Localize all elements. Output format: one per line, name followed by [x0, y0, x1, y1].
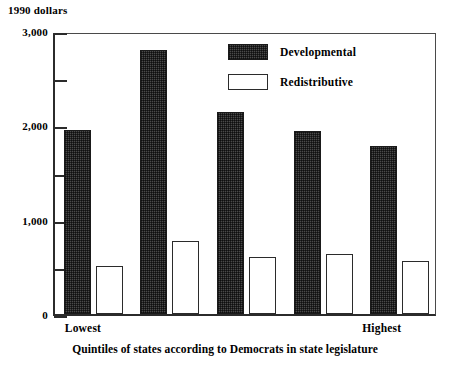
y-axis-minor-tick	[54, 80, 67, 82]
legend-swatch-developmental	[228, 44, 268, 60]
y-axis-tick-label: 3,000	[22, 26, 48, 38]
y-axis-unit-label: 1990 dollars	[8, 4, 68, 16]
bar-redistributive-3	[249, 257, 276, 314]
bar-developmental-5	[370, 146, 397, 314]
legend-item-developmental: Developmental	[228, 44, 356, 60]
legend-label-redistributive: Redistributive	[280, 76, 353, 88]
bar-redistributive-5	[402, 261, 429, 314]
bar-developmental-2	[140, 50, 167, 314]
y-axis-tick-label: 0	[42, 309, 48, 321]
x-axis-label-highest: Highest	[362, 322, 401, 334]
y-axis-tick-label: 2,000	[22, 120, 48, 132]
bar-developmental-1	[64, 130, 91, 314]
y-axis-tick-label: 1,000	[22, 215, 48, 227]
bar-developmental-4	[294, 131, 321, 314]
y-axis-major-tick	[54, 127, 67, 129]
x-axis-caption: Quintiles of states according to Democra…	[0, 343, 450, 355]
bar-redistributive-4	[326, 254, 353, 314]
bar-chart-figure: 1990 dollars 01,0002,0003,000 Developmen…	[0, 0, 450, 368]
legend-swatch-redistributive	[228, 74, 268, 90]
legend-item-redistributive: Redistributive	[228, 74, 356, 90]
x-axis-label-lowest: Lowest	[65, 322, 101, 334]
y-axis-major-tick	[54, 316, 67, 318]
y-axis-major-tick	[54, 33, 67, 35]
legend-label-developmental: Developmental	[280, 46, 356, 58]
bar-redistributive-2	[172, 241, 199, 314]
bar-redistributive-1	[96, 266, 123, 314]
y-axis-tick-label-group: 01,0002,0003,000	[0, 33, 48, 316]
x-axis-tick-label-group: Lowest Highest	[53, 322, 436, 338]
bar-developmental-3	[217, 112, 244, 314]
chart-legend: Developmental Redistributive	[228, 44, 356, 104]
